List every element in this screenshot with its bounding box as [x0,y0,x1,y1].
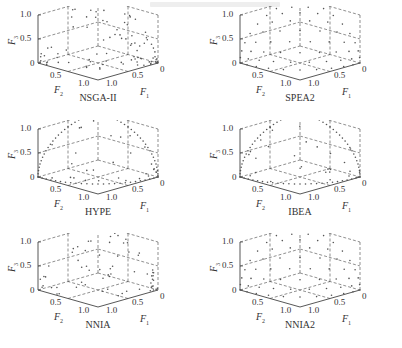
f1-tick-05: 0.5 [132,297,143,307]
z-tick-1: 1.0 [20,9,31,19]
chart-panel-nnia: 1.00.500.51.000.51.0F3F2F1NNIA [0,233,200,348]
chart-panel-spea2: 1.00.500.51.000.51.0F3F2F1SPEA2 [202,6,402,122]
f3-label-sub: 3 [215,36,221,39]
f1-tick-1: 1.0 [106,305,117,315]
plot-area [0,233,200,333]
f1-label-sub: 1 [348,207,351,213]
z-tick-1: 1.0 [20,236,31,246]
f2-tick-05: 0.5 [252,184,263,194]
plot-area [0,6,200,106]
f1-tick-1: 1.0 [308,305,319,315]
z-tick-05: 0.5 [222,260,233,270]
plot-area [202,6,402,106]
f3-axis-label: F3 [208,263,221,272]
f1-tick-05: 0.5 [334,70,345,80]
z-tick-05: 0.5 [222,147,233,157]
f3-axis-label: F3 [208,36,221,45]
f2-tick-1: 1.0 [280,305,291,315]
f1-label-sub: 1 [146,320,149,326]
f1-axis-label: F1 [342,200,351,213]
z-tick-0: 0 [232,285,237,295]
f3-label-text: F [208,39,219,45]
chart-panel-nsga2: 1.00.500.51.000.51.0F3F2F1NSGA-II [0,6,200,122]
z-tick-1: 1.0 [20,123,31,133]
z-tick-0: 0 [30,285,35,295]
f1-axis-label: F1 [140,86,149,99]
f2-tick-1: 1.0 [78,305,89,315]
f3-axis-label: F3 [208,150,221,159]
f1-tick-1: 1.0 [106,192,117,202]
f3-label-text: F [208,266,219,272]
f3-axis-label: F3 [6,263,19,272]
f2-tick-05: 0.5 [50,184,61,194]
f1-tick-0: 0 [362,178,367,188]
f1-axis-label: F1 [140,313,149,326]
f1-tick-0: 0 [160,64,165,74]
f1-tick-05: 0.5 [132,70,143,80]
f2-tick-05: 0.5 [252,297,263,307]
f1-tick-05: 0.5 [132,184,143,194]
z-tick-1: 1.0 [222,9,233,19]
f2-tick-05: 0.5 [50,70,61,80]
f3-label-sub: 3 [13,150,19,153]
z-tick-1: 1.0 [222,236,233,246]
panel-title: NSGA-II [58,92,138,103]
f3-label-text: F [6,153,17,159]
z-tick-0: 0 [30,58,35,68]
chart-panel-nnia2: 1.00.500.51.000.51.0F3F2F1NNIA2 [202,233,402,348]
f1-tick-1: 1.0 [106,78,117,88]
f1-tick-1: 1.0 [308,192,319,202]
f1-tick-0: 0 [160,178,165,188]
z-tick-05: 0.5 [222,33,233,43]
panel-title: NNIA2 [260,319,340,330]
f2-tick-05: 0.5 [252,70,263,80]
f1-axis-label: F1 [342,313,351,326]
z-tick-0: 0 [30,172,35,182]
f1-tick-0: 0 [362,291,367,301]
panel-title: IBEA [260,206,340,217]
f2-tick-1: 1.0 [280,192,291,202]
panel-title: SPEA2 [260,92,340,103]
f2-tick-1: 1.0 [78,192,89,202]
panel-title: NNIA [58,319,138,330]
f2-tick-05: 0.5 [50,297,61,307]
panel-title: HYPE [58,206,138,217]
f3-label-text: F [6,39,17,45]
f3-label-text: F [6,266,17,272]
f1-tick-05: 0.5 [334,297,345,307]
z-tick-1: 1.0 [222,123,233,133]
f3-label-sub: 3 [13,263,19,266]
f2-tick-1: 1.0 [280,78,291,88]
f1-label-sub: 1 [146,207,149,213]
plot-area [0,120,200,220]
z-tick-0: 0 [232,172,237,182]
z-tick-05: 0.5 [20,33,31,43]
f3-label-sub: 3 [215,263,221,266]
f1-tick-0: 0 [160,291,165,301]
chart-panel-hype: 1.00.500.51.000.51.0F3F2F1HYPE [0,120,200,236]
f1-label-sub: 1 [146,93,149,99]
f1-axis-label: F1 [140,200,149,213]
f1-axis-label: F1 [342,86,351,99]
chart-panel-ibea: 1.00.500.51.000.51.0F3F2F1IBEA [202,120,402,236]
f2-tick-1: 1.0 [78,78,89,88]
f3-label-sub: 3 [13,36,19,39]
z-tick-05: 0.5 [20,260,31,270]
f1-tick-1: 1.0 [308,78,319,88]
f3-axis-label: F3 [6,150,19,159]
z-tick-05: 0.5 [20,147,31,157]
plot-area [202,120,402,220]
f3-label-sub: 3 [215,150,221,153]
f1-tick-0: 0 [362,64,367,74]
z-tick-0: 0 [232,58,237,68]
f3-label-text: F [208,153,219,159]
f3-axis-label: F3 [6,36,19,45]
f1-label-sub: 1 [348,320,351,326]
f1-tick-05: 0.5 [334,184,345,194]
f1-label-sub: 1 [348,93,351,99]
plot-area [202,233,402,333]
